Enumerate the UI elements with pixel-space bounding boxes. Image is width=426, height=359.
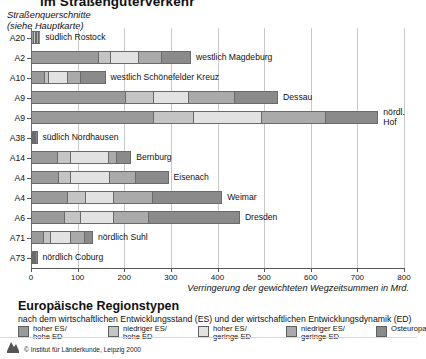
x-tick-label-500: 500 (257, 273, 270, 282)
bar-row[interactable]: Bernburg (31, 151, 404, 164)
y-tick (27, 218, 31, 219)
stacked-bar[interactable] (31, 111, 378, 124)
bar-row[interactable]: nördlich Coburg (31, 251, 404, 264)
stacked-bar[interactable] (31, 171, 169, 184)
page-title: im Straßengüterverkehr (40, 0, 195, 9)
bar-row[interactable]: südlich Nordhausen (31, 131, 404, 144)
bar-segment (68, 192, 86, 203)
bar-row[interactable]: südlich Rostock (31, 31, 404, 44)
bar-segment (153, 192, 221, 203)
y-tick (27, 178, 31, 179)
bar-value-label: südlich Nordhausen (43, 132, 119, 142)
bar-row[interactable]: Dresden (31, 211, 404, 224)
y-tick (27, 258, 31, 259)
x-tick-300 (171, 268, 172, 272)
bar-segment (32, 172, 59, 183)
bar-segment (59, 172, 72, 183)
bar-segment (154, 112, 194, 123)
stacked-bar[interactable] (31, 151, 131, 164)
stacked-bar[interactable] (31, 251, 38, 264)
x-tick-0 (31, 268, 32, 272)
bar-segment (32, 232, 44, 243)
bar-segment (68, 72, 82, 83)
legend-swatch (198, 326, 209, 337)
bar-segment (114, 192, 153, 203)
bar-segment (126, 92, 154, 103)
stacked-bar[interactable] (31, 71, 106, 84)
legend-item[interactable]: Osteuropa (376, 325, 426, 337)
bar-value-label: Bernburg (136, 152, 171, 162)
category-label-A9: A9 (0, 93, 25, 103)
bar-segment (32, 212, 65, 223)
bar-segment (71, 152, 109, 163)
stacked-bar[interactable] (31, 191, 222, 204)
bar-row[interactable]: westlich Magdeburg (31, 51, 404, 64)
y-tick (27, 58, 31, 59)
bar-segment (117, 152, 130, 163)
bar-row[interactable]: Weimar (31, 191, 404, 204)
y-tick (27, 118, 31, 119)
legend-item[interactable]: niedriger ES/hohe ED (108, 325, 167, 342)
subtitle-line-1: Straßenquerschnitte (7, 10, 91, 21)
y-tick (27, 78, 31, 79)
bar-segment (71, 172, 110, 183)
bar-segment (326, 112, 377, 123)
legend-label: hoher ES/geringe ED (213, 325, 251, 342)
category-label-A14: A14 (0, 153, 25, 163)
y-tick (27, 38, 31, 39)
bar-value-label: Dessau (283, 92, 312, 102)
bar-segment (139, 52, 162, 63)
stacked-bar[interactable] (31, 231, 93, 244)
x-tick-label-400: 400 (211, 273, 224, 282)
bar-segment (235, 92, 277, 103)
legend-swatch (18, 326, 29, 337)
legend-item[interactable]: hoher ES/geringe ED (198, 325, 251, 342)
stacked-bar[interactable] (31, 211, 240, 224)
y-tick (27, 198, 31, 199)
bar-segment (32, 112, 154, 123)
bar-row[interactable]: nördlich Suhl (31, 231, 404, 244)
stacked-bar[interactable] (31, 91, 278, 104)
bar-value-label: nördl.Hof (383, 107, 405, 127)
bar-segment (51, 232, 71, 243)
bar-row[interactable]: nördl.Hof (31, 111, 404, 124)
legend-item[interactable]: hoher ES/hohe ED (18, 325, 67, 342)
bar-segment (262, 112, 326, 123)
legend-label-line-1: Osteuropa (391, 325, 426, 333)
category-label-A20: A20 (0, 33, 25, 43)
x-tick-200 (124, 268, 125, 272)
y-tick (27, 138, 31, 139)
x-tick-100 (78, 268, 79, 272)
bar-segment (109, 152, 117, 163)
bar-segment (58, 152, 70, 163)
x-tick-label-300: 300 (164, 273, 177, 282)
bar-row[interactable]: Dessau (31, 91, 404, 104)
legend-swatch (108, 326, 119, 337)
bar-segment (32, 52, 99, 63)
legend-label: hoher ES/hohe ED (33, 325, 67, 342)
stacked-bar[interactable] (31, 51, 191, 64)
bar-segment (114, 212, 149, 223)
bar-row[interactable]: Eisenach (31, 171, 404, 184)
legend-label: Osteuropa (391, 325, 426, 333)
x-tick-label-700: 700 (351, 273, 364, 282)
legend-item[interactable]: niedriger ES/geringe ED (286, 325, 345, 342)
bar-segment (32, 92, 126, 103)
divider (0, 337, 417, 338)
category-label-A4: A4 (0, 173, 25, 183)
plot-area: südlich Rostockwestlich Magdeburgwestlic… (31, 28, 404, 268)
stacked-bar[interactable] (31, 131, 38, 144)
bar-segment (99, 52, 112, 63)
bar-value-label: Weimar (227, 192, 256, 202)
x-tick-label-800: 800 (397, 273, 410, 282)
bar-segment (110, 172, 136, 183)
bar-segment (71, 232, 85, 243)
category-label-A38: A38 (0, 133, 25, 143)
bar-segment (85, 232, 92, 243)
stacked-bar[interactable] (31, 31, 40, 44)
category-label-A6: A6 (0, 213, 25, 223)
bar-row[interactable]: westlich Schönefelder Kreuz (31, 71, 404, 84)
bar-segment (149, 212, 239, 223)
x-tick-700 (357, 268, 358, 272)
bar-value-label: südlich Rostock (45, 32, 105, 42)
